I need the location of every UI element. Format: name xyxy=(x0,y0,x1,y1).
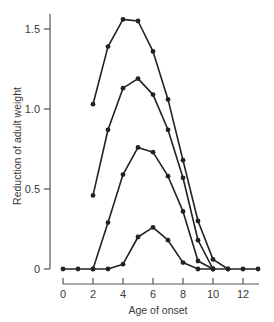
data-point-marker xyxy=(91,102,96,107)
data-point-marker xyxy=(196,219,201,224)
data-point-marker xyxy=(181,175,186,180)
data-point-marker xyxy=(211,257,216,262)
data-point-marker xyxy=(181,260,186,265)
x-axis-title: Age of onset xyxy=(129,304,188,316)
data-point-marker xyxy=(136,19,141,24)
data-point-marker xyxy=(166,238,171,243)
x-tick-label: 4 xyxy=(120,288,126,300)
data-point-marker xyxy=(106,220,111,225)
data-point-marker xyxy=(106,127,111,132)
data-point-marker xyxy=(196,238,201,243)
x-tick-label: 8 xyxy=(180,288,186,300)
data-point-marker xyxy=(121,17,126,22)
data-point-marker xyxy=(61,267,66,272)
series-curve-2 xyxy=(91,76,216,271)
data-point-marker xyxy=(106,44,111,49)
data-point-marker xyxy=(76,267,81,272)
x-tick-label: 6 xyxy=(150,288,156,300)
series-line xyxy=(63,227,258,269)
series-line xyxy=(93,19,228,269)
data-point-marker xyxy=(256,267,261,272)
x-axis: 024681012 xyxy=(60,278,259,300)
data-point-marker xyxy=(91,193,96,198)
data-point-marker xyxy=(211,267,216,272)
data-point-marker xyxy=(91,267,96,272)
x-tick-label: 2 xyxy=(90,288,96,300)
series-line xyxy=(93,79,213,269)
chart: 00.51.01.5 024681012 Reduction of adult … xyxy=(0,0,274,322)
y-axis: 00.51.01.5 xyxy=(25,14,50,275)
data-point-marker xyxy=(166,97,171,102)
data-point-marker xyxy=(166,174,171,179)
y-tick-label: 0 xyxy=(34,263,40,275)
y-tick-label: 1.0 xyxy=(25,103,40,115)
data-point-marker xyxy=(226,267,231,272)
data-point-marker xyxy=(151,225,156,230)
data-point-marker xyxy=(241,267,246,272)
data-point-marker xyxy=(106,267,111,272)
data-point-marker xyxy=(136,76,141,81)
y-tick-label: 0.5 xyxy=(25,183,40,195)
x-tick-label: 12 xyxy=(237,288,249,300)
y-axis-title: Reduction of adult weight xyxy=(11,87,23,205)
data-point-marker xyxy=(196,267,201,272)
data-point-marker xyxy=(121,86,126,91)
data-point-marker xyxy=(181,209,186,214)
series-curve-4 xyxy=(61,225,261,271)
data-point-marker xyxy=(121,262,126,267)
y-tick-label: 1.5 xyxy=(25,23,40,35)
data-point-marker xyxy=(151,92,156,97)
data-point-marker xyxy=(181,158,186,163)
series-curve-3 xyxy=(91,145,216,271)
data-point-marker xyxy=(151,49,156,54)
data-point-marker xyxy=(136,235,141,240)
data-point-marker xyxy=(136,145,141,150)
x-tick-label: 10 xyxy=(207,288,219,300)
data-point-marker xyxy=(196,259,201,264)
data-point-marker xyxy=(151,150,156,155)
x-tick-label: 0 xyxy=(60,288,66,300)
data-point-marker xyxy=(121,172,126,177)
data-point-marker xyxy=(166,127,171,132)
series-layer xyxy=(61,17,261,271)
